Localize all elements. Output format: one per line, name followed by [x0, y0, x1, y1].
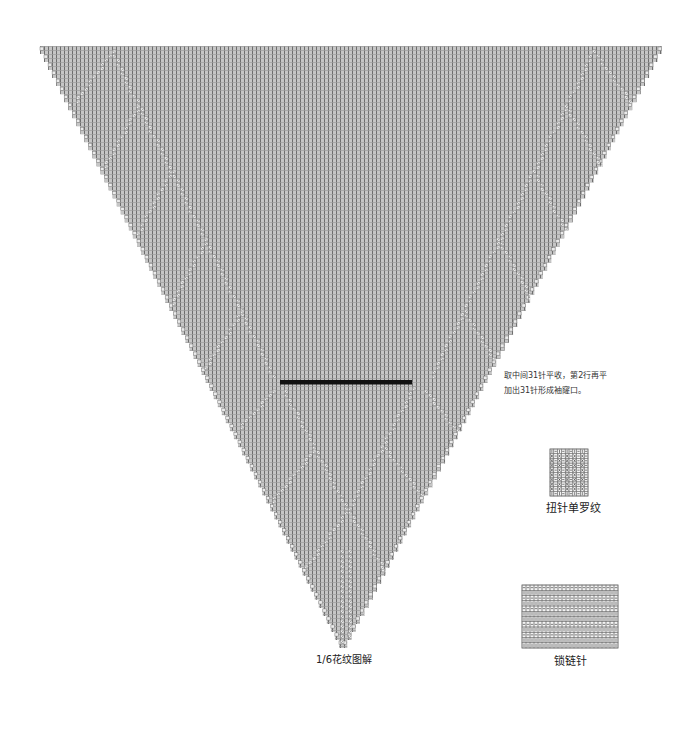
edge-stitch-mark	[303, 569, 306, 572]
edge-stitch-mark	[424, 489, 427, 492]
edge-stitch-mark	[394, 545, 397, 548]
edge-stitch-mark	[282, 529, 285, 532]
edge-stitch-mark	[230, 424, 233, 427]
edge-stitch-mark	[458, 424, 461, 427]
edge-stitch-mark	[416, 505, 419, 508]
edge-stitch-mark	[48, 63, 51, 66]
edge-stitch-mark	[234, 432, 237, 435]
edge-stitch-mark	[137, 240, 140, 243]
legend-charts	[522, 449, 618, 648]
edge-stitch-mark	[539, 272, 542, 275]
edge-stitch-mark	[365, 601, 368, 604]
edge-stitch-mark	[286, 537, 289, 540]
edge-stitch-mark	[153, 272, 156, 275]
edge-stitch-mark	[291, 545, 294, 548]
edge-stitch-mark	[403, 529, 406, 532]
edge-stitch-mark	[624, 111, 627, 114]
edge-stitch-mark	[411, 513, 414, 516]
cast-off-bar	[280, 380, 412, 385]
edge-stitch-mark	[161, 288, 164, 291]
edge-stitch-mark	[645, 71, 648, 74]
edge-stitch-mark	[620, 119, 623, 122]
edge-stitch-mark	[97, 159, 100, 162]
edge-stitch-mark	[157, 280, 160, 283]
edge-stitch-mark	[479, 384, 482, 387]
edge-stitch-mark	[173, 312, 176, 315]
edge-stitch-mark	[93, 151, 96, 154]
annotation-line-1: 取中间31针平收，第2行再平	[504, 372, 607, 380]
edge-stitch-mark	[56, 79, 59, 82]
edge-stitch-mark	[210, 384, 213, 387]
edge-stitch-mark	[181, 328, 184, 331]
edge-stitch-mark	[386, 561, 389, 564]
edge-stitch-mark	[109, 184, 112, 187]
edge-stitch-mark	[80, 127, 83, 130]
edge-stitch-mark	[369, 593, 372, 596]
edge-stitch-mark	[564, 224, 567, 227]
edge-stitch-mark	[445, 448, 448, 451]
edge-stitch-mark	[89, 143, 92, 146]
edge-stitch-mark	[246, 456, 249, 459]
edge-stitch-mark	[68, 103, 71, 106]
edge-stitch-mark	[573, 208, 576, 211]
edge-stitch-mark	[218, 400, 221, 403]
edge-stitch-mark	[467, 408, 470, 411]
knitting-chart-canvas	[0, 0, 699, 732]
edge-stitch-mark	[258, 480, 261, 483]
edge-stitch-mark	[266, 497, 269, 500]
legend-caption-chain-stitch: 锁链针	[540, 656, 600, 667]
annotation-line-2: 加出31针形成袖窿口。	[504, 387, 586, 395]
edge-stitch-mark	[522, 304, 525, 307]
edge-stitch-mark	[518, 312, 521, 315]
edge-stitch-mark	[650, 63, 653, 66]
edge-stitch-mark	[658, 47, 661, 50]
edge-stitch-mark	[129, 224, 132, 227]
edge-stitch-mark	[586, 184, 589, 187]
edge-stitch-mark	[101, 167, 104, 170]
edge-stitch-mark	[433, 472, 436, 475]
edge-stitch-mark	[198, 360, 201, 363]
edge-stitch-mark	[44, 55, 47, 58]
edge-stitch-mark	[654, 55, 657, 58]
edge-stitch-mark	[238, 440, 241, 443]
edge-stitch-mark	[560, 232, 563, 235]
edge-stitch-mark	[530, 288, 533, 291]
edge-stitch-mark	[475, 392, 478, 395]
edge-stitch-mark	[331, 625, 334, 628]
edge-stitch-mark	[501, 344, 504, 347]
edge-stitch-mark	[581, 192, 584, 195]
chain-stitch-chart	[522, 585, 618, 648]
edge-stitch-mark	[496, 352, 499, 355]
edge-stitch-mark	[547, 256, 550, 259]
edge-stitch-mark	[399, 537, 402, 540]
edge-stitch-mark	[360, 609, 363, 612]
edge-stitch-mark	[278, 521, 281, 524]
edge-stitch-mark	[556, 240, 559, 243]
edge-stitch-mark	[177, 320, 180, 323]
edge-stitch-mark	[141, 248, 144, 251]
edge-stitch-mark	[513, 320, 516, 323]
edge-stitch-mark	[226, 416, 229, 419]
edge-stitch-mark	[594, 167, 597, 170]
edge-stitch-mark	[165, 296, 168, 299]
edge-stitch-mark	[149, 264, 152, 267]
edge-stitch-mark	[60, 87, 63, 90]
edge-stitch-mark	[145, 256, 148, 259]
edge-stitch-mark	[505, 336, 508, 339]
edge-stitch-mark	[117, 200, 120, 203]
edge-stitch-mark	[295, 553, 298, 556]
edge-stitch-mark	[488, 368, 491, 371]
edge-stitch-mark	[577, 200, 580, 203]
edge-stitch-mark	[323, 609, 326, 612]
edge-stitch-mark	[543, 264, 546, 267]
edge-stitch-mark	[641, 79, 644, 82]
edge-stitch-mark	[633, 95, 636, 98]
edge-stitch-mark	[121, 208, 124, 211]
edge-stitch-mark	[319, 601, 322, 604]
edge-stitch-mark	[307, 577, 310, 580]
edge-stitch-mark	[603, 151, 606, 154]
edge-stitch-mark	[390, 553, 393, 556]
edge-stitch-mark	[214, 392, 217, 395]
edge-stitch-mark	[509, 328, 512, 331]
edge-stitch-mark	[407, 521, 410, 524]
